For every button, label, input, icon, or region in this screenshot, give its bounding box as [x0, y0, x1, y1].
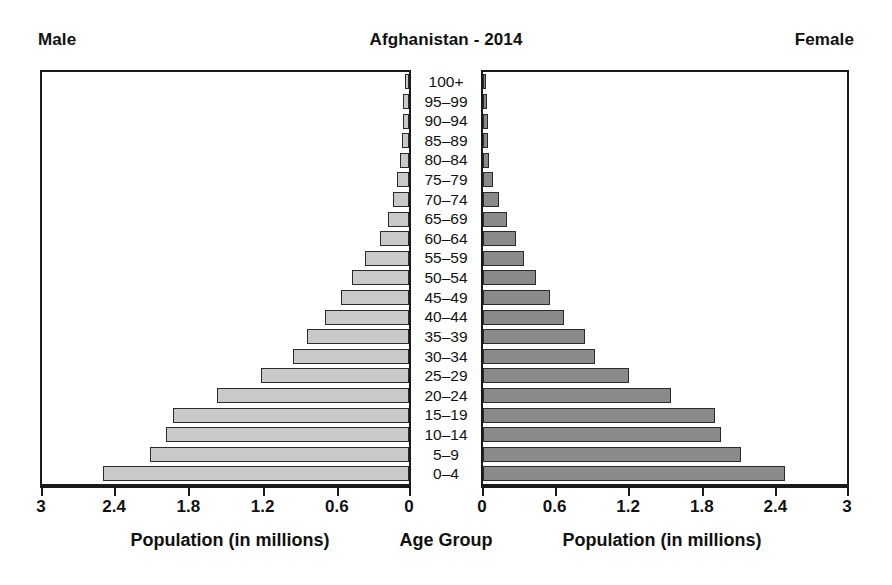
bar-row: [42, 347, 409, 367]
bar-row: [42, 366, 409, 386]
bar-female-15–19: [483, 408, 715, 423]
axis-tick-label: 3: [36, 497, 45, 517]
bar-row: [42, 445, 409, 465]
age-group-label: 85–89: [411, 131, 481, 151]
bar-male-95–99: [403, 94, 409, 109]
axis-tick-label: 1.2: [616, 497, 640, 517]
bar-row: [483, 445, 847, 465]
age-group-label: 5–9: [411, 445, 481, 465]
age-group-label: 10–14: [411, 425, 481, 445]
axis-tick-label: 2.4: [764, 497, 788, 517]
bar-row: [483, 150, 847, 170]
bar-row: [42, 405, 409, 425]
axis-tick: [847, 486, 849, 496]
age-group-axis: 100+95–9990–9485–8980–8475–7970–7465–696…: [411, 72, 481, 484]
bar-row: [42, 229, 409, 249]
male-tick-axis: [40, 486, 411, 496]
bar-row: [483, 248, 847, 268]
bar-female-45–49: [483, 290, 550, 305]
age-group-label: 100+: [411, 72, 481, 92]
bar-male-55–59: [365, 251, 409, 266]
bar-row: [483, 288, 847, 308]
axis-tick: [263, 486, 265, 496]
axis-tick: [555, 486, 557, 496]
axis-tick: [482, 486, 484, 496]
bar-row: [483, 268, 847, 288]
bar-female-95–99: [483, 94, 487, 109]
bar-row: [483, 72, 847, 92]
axis-tick-label: 0.6: [543, 497, 567, 517]
bar-female-20–24: [483, 388, 671, 403]
bar-male-90–94: [403, 114, 409, 129]
female-side-label: Female: [795, 30, 854, 50]
age-group-label: 70–74: [411, 190, 481, 210]
bar-row: [483, 170, 847, 190]
bar-row: [483, 307, 847, 327]
bar-female-85–89: [483, 133, 488, 148]
bar-male-25–29: [261, 368, 409, 383]
bar-male-10–14: [166, 427, 409, 442]
bar-row: [483, 405, 847, 425]
bar-male-70–74: [393, 192, 409, 207]
bar-row: [42, 327, 409, 347]
axis-tick-label: 0: [404, 497, 413, 517]
axis-tick-label: 1.2: [251, 497, 275, 517]
age-group-label: 45–49: [411, 288, 481, 308]
bar-row: [483, 131, 847, 151]
age-group-label: 55–59: [411, 248, 481, 268]
bar-male-30–34: [293, 349, 409, 364]
bar-row: [42, 111, 409, 131]
right-axis-caption: Population (in millions): [492, 530, 832, 551]
axis-tick-label: 1.8: [690, 497, 714, 517]
bar-female-60–64: [483, 231, 516, 246]
axis-tick: [409, 486, 411, 496]
bar-male-80–84: [400, 153, 409, 168]
bar-male-45–49: [341, 290, 410, 305]
bar-row: [483, 229, 847, 249]
axis-tick-label: 1.8: [177, 497, 201, 517]
age-group-label: 65–69: [411, 209, 481, 229]
chart-title: Afghanistan - 2014: [0, 30, 892, 50]
female-bar-group: [483, 72, 847, 484]
bar-row: [483, 464, 847, 484]
bar-male-35–39: [307, 329, 409, 344]
axis-tick: [188, 486, 190, 496]
age-group-label: 90–94: [411, 111, 481, 131]
axis-tick: [337, 486, 339, 496]
bar-row: [42, 425, 409, 445]
age-group-label: 80–84: [411, 150, 481, 170]
bar-female-80–84: [483, 153, 489, 168]
bar-male-50–54: [352, 270, 409, 285]
bar-row: [42, 288, 409, 308]
bar-row: [42, 209, 409, 229]
axis-tick-label: 2.4: [102, 497, 126, 517]
bar-female-25–29: [483, 368, 629, 383]
male-bar-group: [42, 72, 409, 484]
bar-male-65–69: [388, 212, 409, 227]
age-group-label: 15–19: [411, 405, 481, 425]
bar-row: [42, 150, 409, 170]
bar-male-40–44: [325, 310, 409, 325]
age-group-label: 0–4: [411, 464, 481, 484]
bar-female-0–4: [483, 466, 785, 481]
male-tick-labels: 32.41.81.20.60: [40, 497, 411, 519]
bar-female-55–59: [483, 251, 524, 266]
bar-female-100plus: [483, 74, 486, 89]
bar-row: [42, 386, 409, 406]
population-pyramid-chart: Male Afghanistan - 2014 Female 100+95–99…: [0, 0, 892, 585]
bar-row: [483, 386, 847, 406]
bar-female-65–69: [483, 212, 507, 227]
female-axis-line: [481, 486, 849, 488]
axis-tick-label: 0.6: [325, 497, 349, 517]
female-tick-axis: [481, 486, 849, 496]
bar-row: [483, 92, 847, 112]
axis-tick: [702, 486, 704, 496]
female-tick-labels: 00.61.21.82.43: [481, 497, 849, 519]
axis-tick: [775, 486, 777, 496]
age-group-label: 60–64: [411, 229, 481, 249]
bar-male-0–4: [103, 466, 409, 481]
bar-row: [42, 464, 409, 484]
bar-row: [483, 111, 847, 131]
bar-female-75–79: [483, 172, 493, 187]
bar-row: [483, 327, 847, 347]
